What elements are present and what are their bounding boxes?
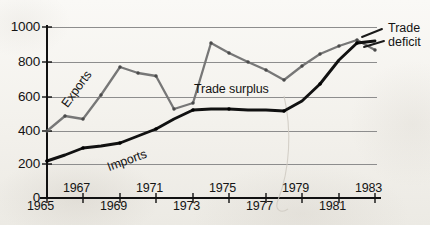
x-axis-tick-1981: 1981: [319, 199, 346, 213]
y-axis-tick-800: 800: [0, 54, 40, 69]
trade-deficit-label-line2: deficit: [388, 36, 421, 50]
x-axis-tick-1971: 1971: [136, 181, 163, 195]
x-axis-tick-1965: 1965: [27, 199, 54, 213]
x-axis-tick-1977: 1977: [246, 199, 273, 213]
x-axis-tick-1975: 1975: [209, 181, 236, 195]
trade-surplus-label: Trade surplus: [194, 82, 269, 96]
x-axis-tick-1979: 1979: [282, 181, 309, 195]
y-axis-tick-400: 400: [0, 123, 40, 138]
x-axis-tick-1983: 1983: [355, 181, 382, 195]
chart-figure: 1000 800 600 400 200 0 1967 1971 1975 19…: [0, 0, 430, 225]
x-axis-tick-1969: 1969: [100, 199, 127, 213]
x-axis-tick-1973: 1973: [173, 199, 200, 213]
y-axis-tick-1000: 1000: [0, 19, 40, 34]
trade-deficit-label-line1: Trade: [388, 22, 421, 36]
y-axis-tick-600: 600: [0, 89, 40, 104]
x-axis-tick-1967: 1967: [63, 181, 90, 195]
trade-deficit-label: Trade deficit: [388, 22, 421, 49]
y-axis-tick-200: 200: [0, 156, 40, 171]
